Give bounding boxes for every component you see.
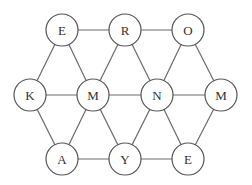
node-label: O: [183, 23, 192, 38]
node-label: E: [184, 152, 192, 167]
node-m-n7: M: [205, 79, 237, 111]
node-label: R: [121, 23, 130, 38]
node-label: M: [215, 88, 227, 103]
node-k-n4: K: [14, 79, 46, 111]
node-e-n1: E: [46, 14, 78, 46]
node-n-n6: N: [141, 79, 173, 111]
node-label: N: [152, 88, 162, 103]
node-o-n3: O: [172, 14, 204, 46]
node-m-n5: M: [77, 79, 109, 111]
node-r-n2: R: [109, 14, 141, 46]
node-label: M: [87, 88, 99, 103]
node-label: A: [57, 152, 67, 167]
letter-graph-diagram: EROKMNMAYE: [0, 0, 252, 185]
node-label: K: [25, 88, 35, 103]
node-a-n8: A: [46, 143, 78, 175]
node-label: E: [58, 23, 66, 38]
node-e-n10: E: [172, 143, 204, 175]
node-y-n9: Y: [109, 143, 141, 175]
edges-group: [30, 30, 221, 159]
node-label: Y: [120, 152, 130, 167]
